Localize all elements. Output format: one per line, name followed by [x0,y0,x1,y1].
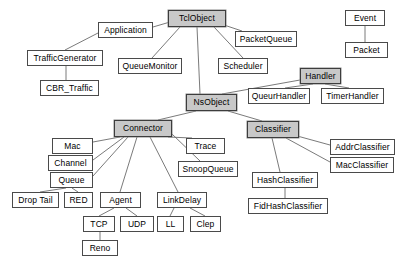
node-clep[interactable]: Clep [190,216,221,232]
node-trafficgenerator[interactable]: TrafficGenerator [27,50,103,66]
node-channel[interactable]: Channel [48,155,93,171]
edge-classifier-to-hashclassifier [272,138,280,172]
edge-linkdelay-to-clep [190,208,205,216]
node-connector[interactable]: Connector [114,120,172,137]
node-cbr_traffic[interactable]: CBR_Traffic [40,80,99,96]
node-macclassifier[interactable]: MacClassifier [330,157,394,173]
node-snoopqueue[interactable]: SnoopQueue [178,161,238,177]
node-packet[interactable]: Packet [345,42,388,58]
node-red[interactable]: RED [64,192,93,208]
edge-linkdelay-to-ll [170,208,174,216]
node-fidhashclassifier[interactable]: FidHashClassifier [248,198,328,214]
node-application[interactable]: Application [98,22,153,38]
node-event[interactable]: Event [345,10,385,26]
edge-connector-to-agent [120,137,137,192]
node-udp[interactable]: UDP [120,216,154,232]
edge-agent-to-udp [126,208,137,216]
node-packetqueue[interactable]: PacketQueue [235,31,297,47]
node-reno[interactable]: Reno [82,240,118,256]
node-scheduler[interactable]: Scheduler [218,58,268,74]
edge-connector-to-linkdelay [150,137,178,192]
node-queue[interactable]: Queue [50,172,93,188]
node-handler[interactable]: Handler [300,68,341,84]
edge-application-to-trafficgenerator [65,33,98,50]
node-tcp[interactable]: TCP [83,216,115,232]
edge-connector-to-mac [93,137,120,142]
node-queurhandler[interactable]: QueurHandler [248,88,310,104]
class-hierarchy-diagram: TclObjectApplicationTrafficGeneratorCBR_… [0,0,408,272]
node-mac[interactable]: Mac [52,138,93,154]
edge-tclobject-to-queuemonitor [152,27,180,58]
node-classifier[interactable]: Classifier [247,121,299,138]
node-linkdelay[interactable]: LinkDelay [157,192,207,208]
node-tclobject[interactable]: TclObject [168,10,226,27]
node-droptail[interactable]: Drop Tail [12,192,59,208]
node-ll[interactable]: LL [157,216,184,232]
edge-connector-to-channel [93,137,124,160]
edge-nsobject-to-classifier [228,111,262,121]
edge-nsobject-to-connector [158,111,196,120]
node-nsobject[interactable]: NsObject [186,94,237,111]
node-addrclassifier[interactable]: AddrClassifier [330,139,395,155]
node-hashclassifier[interactable]: HashClassifier [252,172,318,188]
node-timerhandler[interactable]: TimerHandler [321,88,384,104]
node-queuemonitor[interactable]: QueueMonitor [118,58,182,74]
node-trace[interactable]: Trace [186,138,225,154]
node-agent[interactable]: Agent [100,192,141,208]
edge-tclobject-to-nsobject [197,27,200,94]
edge-agent-to-tcp [99,208,114,216]
edge-classifier-to-macclassifier [286,138,330,162]
